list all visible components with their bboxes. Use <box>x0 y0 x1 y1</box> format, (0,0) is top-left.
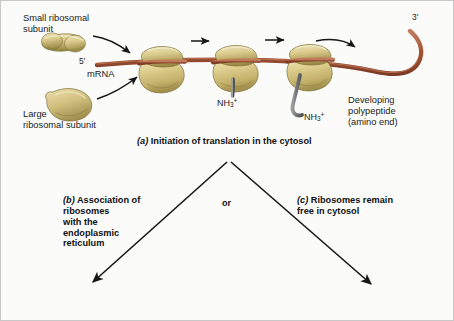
ribosome-complex-3 <box>287 45 333 116</box>
or-connector-label: or <box>222 198 231 209</box>
caption-a-body: Initiation of translation in the cytosol <box>151 136 312 146</box>
translation-diagram-figure: Small ribosomal subunit Large ribosomal … <box>0 0 454 321</box>
diagram-canvas <box>1 1 454 321</box>
ribosome-complex-1 <box>139 47 185 93</box>
nh3-text-1: NH <box>217 98 230 108</box>
caption-a-tag: (a) <box>137 136 148 146</box>
caption-b-tag: (b) <box>63 195 75 205</box>
caption-c: (c) Ribosomes remain free in cytosol <box>297 195 393 217</box>
caption-b-body: Association of ribosomes with the endopl… <box>63 195 140 248</box>
ribosome-transit-arrows <box>191 40 355 47</box>
five-prime-end-label: 5′ <box>79 57 85 67</box>
amino-terminus-label-1: NH3+ <box>217 97 237 108</box>
ribosome-complex-2 <box>213 46 259 97</box>
small-ribosomal-subunit-shape <box>41 32 85 52</box>
caption-c-body: Ribosomes remain free in cytosol <box>297 195 393 216</box>
amino-terminus-label-2: NH3+ <box>304 111 324 122</box>
large-ribosomal-subunit-label: Large ribosomal subunit <box>23 109 96 131</box>
nh3-text-2: NH <box>304 112 317 122</box>
nh3-superscript-2: + <box>321 111 325 118</box>
developing-polypeptide-label: Developing polypeptide (amino end) <box>348 95 398 128</box>
mrna-label: mRNA <box>87 69 114 80</box>
caption-c-tag: (c) <box>297 195 308 205</box>
subunit-recruitment-arrows <box>93 36 137 99</box>
caption-b: (b) Association of ribosomes with the en… <box>63 195 140 249</box>
three-prime-end-label: 3′ <box>412 13 418 23</box>
caption-a: (a) Initiation of translation in the cyt… <box>137 136 312 147</box>
nh3-superscript-1: + <box>234 97 238 104</box>
small-ribosomal-subunit-label: Small ribosomal subunit <box>23 13 89 35</box>
